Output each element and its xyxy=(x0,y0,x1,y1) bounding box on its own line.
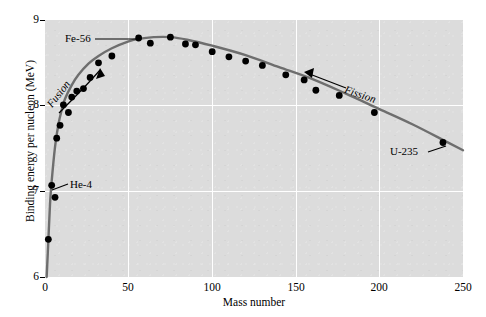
gridline-y-8 xyxy=(45,105,463,106)
u235-label: U-235 xyxy=(390,145,418,157)
gridline-x-50 xyxy=(128,20,129,277)
xtick-label-100: 100 xyxy=(192,281,232,293)
he4-label: He-4 xyxy=(70,178,92,190)
gridline-x-200 xyxy=(379,20,380,277)
binding-energy-chart: 9 8 7 6 0 50 100 150 200 250 Binding ene… xyxy=(0,0,486,317)
ytick-mark-7 xyxy=(40,191,45,192)
xtick-label-200: 200 xyxy=(359,281,399,293)
xtick-label-250: 250 xyxy=(443,281,483,293)
ytick-mark-6 xyxy=(40,277,45,278)
ytick-mark-8 xyxy=(40,105,45,106)
xtick-label-0: 0 xyxy=(25,281,65,293)
ytick-label-9: 9 xyxy=(17,13,39,25)
gridline-y-7 xyxy=(45,191,463,192)
gridline-x-150 xyxy=(296,20,297,277)
xtick-label-150: 150 xyxy=(276,281,316,293)
ytick-mark-9 xyxy=(40,20,45,21)
x-axis-title: Mass number xyxy=(45,296,463,308)
gridline-x-100 xyxy=(212,20,213,277)
xtick-label-50: 50 xyxy=(108,281,148,293)
y-axis-title: Binding energy per nucleon (MeV) xyxy=(24,26,36,256)
fe56-label: Fe-56 xyxy=(65,32,91,44)
